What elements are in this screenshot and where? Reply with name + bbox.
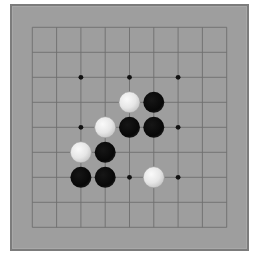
black-stone [95,167,116,188]
star-point [127,175,132,180]
black-stone [70,167,91,188]
star-point [176,75,181,80]
star-point [176,125,181,130]
star-point [79,75,84,80]
white-stone [119,92,140,113]
star-point [127,75,132,80]
white-stone [70,142,91,163]
black-stone [119,117,140,138]
board-canvas[interactable] [0,0,257,259]
stones [70,92,164,188]
white-stone [95,117,116,138]
black-stone [95,142,116,163]
white-stone [143,167,164,188]
star-point [176,175,181,180]
black-stone [143,92,164,113]
black-stone [143,117,164,138]
star-point [79,125,84,130]
